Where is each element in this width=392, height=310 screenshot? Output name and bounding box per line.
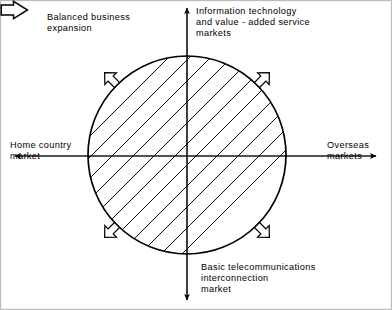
quadrant-diagram-figure: Balanced business expansion Information …: [0, 0, 392, 310]
legend-label: Balanced business expansion: [47, 12, 130, 34]
axis-label-up: Information technology and value - added…: [196, 6, 310, 40]
block-arrow-right-icon: [0, 0, 30, 20]
axis-label-down: Basic telecommunications interconnection…: [201, 262, 316, 296]
axis-label-right: Overseas markets: [327, 140, 369, 162]
expansion-arrow-upper-left: [99, 67, 123, 91]
hatched-circle: [0, 52, 384, 300]
expansion-arrow-lower-right: [251, 219, 275, 243]
axis-label-left: Home country market: [10, 140, 71, 162]
expansion-arrow-upper-right: [251, 67, 275, 91]
expansion-arrow-lower-left: [99, 219, 123, 243]
circle-hatching: [0, 52, 384, 300]
